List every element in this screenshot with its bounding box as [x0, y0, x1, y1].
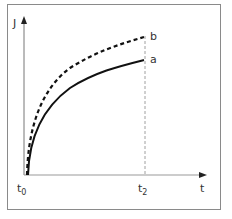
t0-label: t0 [17, 183, 26, 197]
curve-a [28, 60, 144, 175]
x-axis-label: t [200, 183, 204, 194]
y-axis-label: J [13, 18, 16, 29]
curve-b-label: b [150, 31, 157, 42]
x-axis-arrow-icon [199, 172, 207, 178]
y-axis-arrow-icon [21, 16, 27, 24]
curve-a-label: a [150, 54, 157, 65]
curve-b [27, 37, 144, 175]
plot-area [0, 0, 232, 219]
t2-label: t2 [138, 183, 147, 197]
